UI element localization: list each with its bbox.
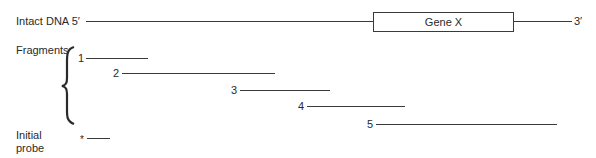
fragment-2-line xyxy=(122,73,275,74)
fragments-brace-icon xyxy=(0,0,596,158)
fragment-3-number: 3 xyxy=(231,84,237,96)
probe-label-line2: probe xyxy=(16,142,44,154)
probe-line xyxy=(87,138,110,139)
fragment-1-line xyxy=(86,58,148,59)
fragment-2-number: 2 xyxy=(113,67,119,79)
fragment-5-number: 5 xyxy=(367,118,373,130)
fragment-3-line xyxy=(240,90,330,91)
fragment-1-number: 1 xyxy=(78,52,84,64)
fragment-5-line xyxy=(376,124,557,125)
fragment-4-line xyxy=(307,106,405,107)
probe-asterisk-icon: * xyxy=(80,134,84,146)
fragment-4-number: 4 xyxy=(298,100,304,112)
probe-label-line1: Initial xyxy=(16,129,42,141)
